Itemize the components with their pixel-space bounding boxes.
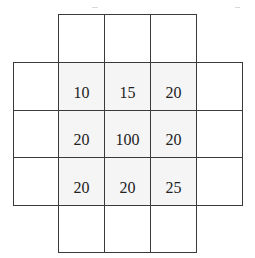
cell-value: 25 xyxy=(151,180,196,196)
grid-cell-r3-right xyxy=(196,157,243,206)
grid-cell-top-1 xyxy=(58,14,105,63)
grid-cell-r3-left xyxy=(13,157,59,206)
grid-cell-r3-c1: 20 xyxy=(58,157,105,206)
grid-cell-r1-c3: 20 xyxy=(150,62,197,111)
cell-value: 10 xyxy=(59,85,104,101)
grid-cell-bottom-3 xyxy=(150,205,197,253)
grid-cell-r3-c3: 25 xyxy=(150,157,197,206)
grid-cell-r2-left xyxy=(13,110,59,158)
grid-cell-r1-c2: 15 xyxy=(104,62,151,111)
grid-cell-top-3 xyxy=(150,14,197,63)
grid-cell-bottom-2 xyxy=(104,205,151,253)
grid-cell-bottom-1 xyxy=(58,205,105,253)
grid-cell-r1-c1: 10 xyxy=(58,62,105,111)
cell-value: 20 xyxy=(105,180,150,196)
grid-cell-r2-right xyxy=(196,110,243,158)
grid-cell-r2-c2: 100 xyxy=(104,110,151,158)
grid-cell-r2-c3: 20 xyxy=(150,110,197,158)
cell-value: 20 xyxy=(151,85,196,101)
cell-value: 100 xyxy=(105,132,150,148)
grid-cell-r1-right xyxy=(196,62,243,111)
grid-cell-r2-c1: 20 xyxy=(58,110,105,158)
kernel-grid-diagram: 10 15 20 20 100 20 20 20 25 xyxy=(0,0,255,258)
cell-value: 20 xyxy=(59,132,104,148)
cell-value: 20 xyxy=(151,132,196,148)
cell-value: 20 xyxy=(59,180,104,196)
grid-cell-r1-left xyxy=(13,62,59,111)
grid-cell-r3-c2: 20 xyxy=(104,157,151,206)
top-mark-right xyxy=(235,7,240,8)
cell-value: 15 xyxy=(105,85,150,101)
grid-cell-top-2 xyxy=(104,14,151,63)
top-mark-left xyxy=(92,7,98,8)
